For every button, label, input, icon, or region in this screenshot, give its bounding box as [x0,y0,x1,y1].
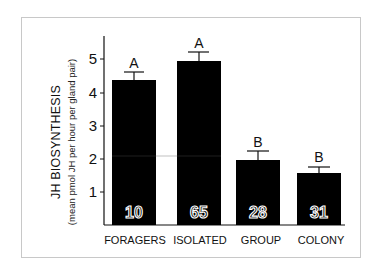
bar-group: B 28 [236,134,280,225]
bar-chart: JH BIOSYNTHESIS (mean pmol JH per hour p… [0,0,379,271]
y-axis-title: JH BIOSYNTHESIS [49,85,63,199]
significance-letter: A [129,55,139,71]
sample-size: 65 [190,204,208,221]
y-tick-label: 3 [89,117,97,134]
significance-letter: B [314,149,323,165]
y-ticks: 1 2 3 4 5 [89,50,104,200]
significance-letter: B [253,134,262,150]
sample-size: 31 [310,204,328,221]
x-category-label: FORAGERS [104,234,166,246]
y-tick-label: 4 [89,84,97,101]
bar-isolated: A 65 [177,35,221,225]
significance-letter: A [194,35,204,51]
bar-foragers: A 10 [112,55,156,225]
sample-size: 28 [249,204,267,221]
y-tick-label: 5 [89,50,97,67]
sample-size: 10 [125,204,143,221]
x-category-label: COLONY [298,234,345,246]
y-axis-subtitle: (mean pmol JH per hour per gland pair) [66,59,77,225]
y-tick-label: 2 [89,150,97,167]
bar-colony: B 31 [297,149,341,225]
x-category-label: GROUP [241,234,281,246]
x-category-label: ISOLATED [173,234,227,246]
y-tick-label: 1 [89,183,97,200]
